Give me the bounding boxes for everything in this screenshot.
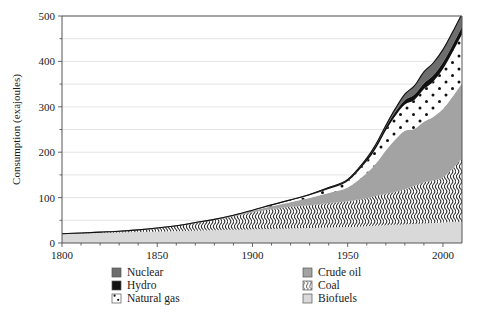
y-tick-label: 500	[39, 10, 56, 22]
crude-oil-swatch	[303, 268, 312, 277]
legend-label: Coal	[318, 279, 340, 291]
x-tick-label: 2000	[432, 249, 455, 261]
x-tick-label: 1800	[51, 249, 74, 261]
nuclear-swatch	[112, 268, 121, 277]
legend-label: Crude oil	[318, 266, 361, 278]
y-axis: 0100200300400500	[39, 10, 63, 249]
legend-item-crude-oil[interactable]: Crude oil	[303, 266, 361, 278]
legend-label: Biofuels	[318, 292, 357, 304]
y-tick-label: 400	[39, 55, 56, 67]
legend-label: Natural gas	[127, 292, 180, 305]
x-tick-label: 1850	[146, 249, 169, 261]
legend: NuclearHydroNatural gasCrude oilCoalBiof…	[112, 266, 361, 305]
y-axis-title: Consumption (exajoules)	[10, 74, 23, 185]
energy-consumption-figure: 0100200300400500Consumption (exajoules)1…	[0, 0, 487, 331]
legend-item-biofuels[interactable]: Biofuels	[303, 292, 357, 304]
stacked-area-chart: 0100200300400500Consumption (exajoules)1…	[0, 0, 487, 331]
x-axis: 18001850190019502000	[51, 243, 454, 261]
legend-label: Nuclear	[127, 266, 164, 278]
y-tick-label: 100	[39, 192, 56, 204]
biofuels-swatch	[303, 294, 312, 303]
x-tick-label: 1950	[337, 249, 360, 261]
dot-glyph	[114, 295, 116, 297]
y-tick-label: 200	[39, 146, 56, 158]
legend-item-hydro[interactable]: Hydro	[112, 279, 157, 292]
legend-label: Hydro	[127, 279, 157, 292]
hydro-swatch	[112, 281, 121, 290]
y-tick-label: 300	[39, 101, 56, 113]
legend-item-nuclear[interactable]: Nuclear	[112, 266, 164, 278]
dot-glyph	[117, 299, 119, 301]
coal-swatch	[303, 281, 312, 290]
natural-gas-swatch	[112, 294, 121, 303]
y-tick-label: 0	[50, 237, 56, 249]
x-tick-label: 1900	[241, 249, 264, 261]
legend-item-natural-gas[interactable]: Natural gas	[112, 292, 180, 305]
legend-column: NuclearHydroNatural gas	[112, 266, 180, 305]
legend-column: Crude oilCoalBiofuels	[303, 266, 361, 304]
legend-item-coal[interactable]: Coal	[303, 279, 340, 291]
